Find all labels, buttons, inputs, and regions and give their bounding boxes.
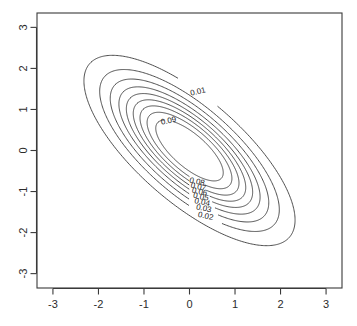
x-tick-label: 0 xyxy=(186,298,192,310)
contour-plot-figure: 0.010.020.030.040.050.060.070.080.09 -3-… xyxy=(0,0,357,326)
x-tick-label: -1 xyxy=(139,298,149,310)
x-tick-label: 1 xyxy=(232,298,238,310)
y-tick-label: 1 xyxy=(17,106,29,112)
x-tick-label: -2 xyxy=(94,298,104,310)
x-tick-label: 3 xyxy=(323,298,329,310)
y-tick-label: -1 xyxy=(17,187,29,197)
x-tick-label: 2 xyxy=(277,298,283,310)
y-tick-label: -3 xyxy=(17,269,29,279)
plot-canvas: 0.010.020.030.040.050.060.070.080.09 -3-… xyxy=(0,0,357,326)
y-tick-label: 3 xyxy=(17,24,29,30)
x-tick-label: -3 xyxy=(48,298,58,310)
y-tick-label: 2 xyxy=(17,65,29,71)
y-tick-label: 0 xyxy=(17,147,29,153)
y-tick-label: -2 xyxy=(17,228,29,238)
